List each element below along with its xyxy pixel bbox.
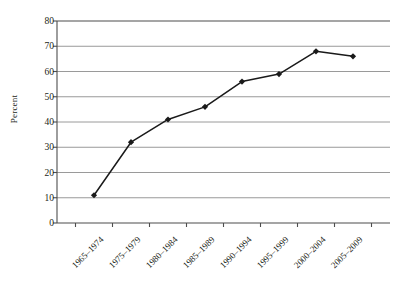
y-tick-label: 80 xyxy=(30,16,54,26)
data-point-marker xyxy=(350,53,356,59)
data-series-line xyxy=(94,51,353,195)
line-chart: Percent 01020304050607080 1965–19741975–… xyxy=(0,0,408,296)
y-tick-label: 60 xyxy=(30,67,54,77)
y-tick-label: 0 xyxy=(30,218,54,228)
y-tick-label: 40 xyxy=(30,117,54,127)
y-tick-label: 70 xyxy=(30,41,54,51)
x-axis-tick-marks xyxy=(76,223,372,227)
gridlines xyxy=(57,21,390,198)
y-tick-label: 20 xyxy=(30,168,54,178)
y-tick-label: 30 xyxy=(30,142,54,152)
y-axis-title: Percent xyxy=(9,74,19,144)
data-point-markers xyxy=(91,48,356,198)
y-tick-label: 10 xyxy=(30,193,54,203)
y-axis-tick-labels: 01020304050607080 xyxy=(28,0,54,296)
y-tick-label: 50 xyxy=(30,92,54,102)
